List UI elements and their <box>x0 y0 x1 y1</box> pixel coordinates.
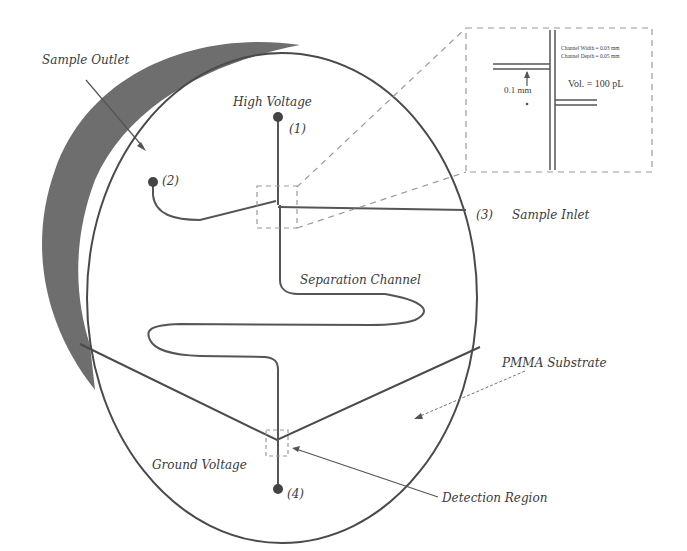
detection-pointer <box>296 449 438 497</box>
substrate-boundary <box>80 344 480 440</box>
offset-marker <box>526 103 529 106</box>
label-port-4: (4) <box>287 487 304 501</box>
pmma-pointer <box>418 371 525 417</box>
label-port-3: (3) <box>476 208 493 222</box>
inset-volume: Vol. = 100 pL <box>568 78 623 89</box>
inset-leader-top <box>297 28 466 187</box>
label-separation-channel: Separation Channel <box>300 273 421 287</box>
label-sample-inlet: Sample Inlet <box>512 208 590 222</box>
arrow-icon <box>292 446 300 452</box>
label-pmma-substrate: PMMA Substrate <box>501 356 607 370</box>
arrow-icon <box>414 413 423 419</box>
label-port-1: (1) <box>289 122 306 136</box>
label-sample-outlet: Sample Outlet <box>42 53 130 67</box>
port-2 <box>148 177 158 187</box>
label-high-voltage: High Voltage <box>232 95 312 109</box>
chip-diagram: Channel Width = 0.03 mm Channel Depth = … <box>0 0 687 551</box>
arrow-icon <box>137 142 146 151</box>
label-detection-region: Detection Region <box>441 491 547 505</box>
inset-offset: 0.1 mm <box>504 85 532 95</box>
inset-channel-width: Channel Width = 0.03 mm <box>561 45 620 51</box>
separation-channel <box>148 205 424 488</box>
channel-sample-inlet <box>278 207 466 210</box>
pmma-disc <box>87 53 477 543</box>
label-ground-voltage: Ground Voltage <box>152 458 247 472</box>
label-port-2: (2) <box>162 174 179 188</box>
port-4 <box>273 484 283 494</box>
inset-leader-bottom <box>297 172 466 228</box>
inset-channel-depth: Channel Depth = 0.05 mm <box>561 53 620 59</box>
port-1 <box>273 112 283 122</box>
